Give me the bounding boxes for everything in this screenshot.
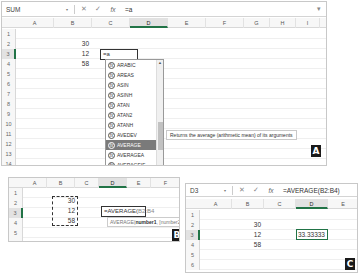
column-header[interactable]: I	[296, 18, 320, 28]
scrollbar[interactable]: ▲ ▼	[156, 60, 163, 166]
column-header[interactable]: B	[47, 178, 75, 188]
row-header[interactable]: 2	[2, 39, 16, 49]
chevron-down-icon[interactable]: ▾	[66, 7, 68, 12]
gridline	[16, 68, 326, 69]
function-name: ASIN	[117, 80, 129, 90]
function-list-item[interactable]: fxATANH	[106, 120, 163, 130]
cell-b4[interactable]: 58	[232, 241, 264, 248]
row-header[interactable]: 1	[186, 210, 200, 220]
column-header[interactable]: E	[168, 18, 206, 28]
function-list-item[interactable]: fxARABIC	[106, 60, 163, 70]
column-header[interactable]: B	[54, 18, 92, 28]
row-header[interactable]: 12	[2, 139, 16, 149]
row-header[interactable]: 11	[2, 129, 16, 139]
column-header[interactable]: C	[92, 18, 130, 28]
cancel-icon[interactable]: ✕	[77, 5, 91, 13]
scroll-thumb[interactable]	[158, 122, 163, 150]
chevron-down-icon[interactable]: ▾	[224, 188, 226, 193]
row-header[interactable]: 4	[9, 218, 23, 228]
function-list-item[interactable]: fxASINH	[106, 90, 163, 100]
function-list-item[interactable]: fxAVERAGEA	[106, 150, 163, 160]
cell-b4[interactable]: 58	[47, 217, 78, 224]
row-header[interactable]: 5	[2, 69, 16, 79]
gridline	[200, 269, 358, 270]
row-header[interactable]: 2	[186, 220, 200, 230]
formula-input[interactable]: =AVERAGE(B2:B4)	[279, 187, 357, 194]
enter-icon[interactable]: ✓	[249, 186, 263, 194]
row-header[interactable]: 10	[2, 119, 16, 129]
gridline	[16, 118, 326, 119]
column-header[interactable]: H	[270, 18, 296, 28]
row-header[interactable]: 3	[2, 49, 16, 59]
function-name: AVERAGEA	[117, 150, 144, 160]
row-header[interactable]: 3	[9, 208, 23, 218]
gridline	[200, 229, 358, 230]
function-list-item[interactable]: fxASIN	[106, 80, 163, 90]
insert-function-icon[interactable]: fx	[105, 6, 121, 13]
row-header[interactable]: 1	[2, 29, 16, 39]
column-header[interactable]: E	[328, 199, 358, 209]
cell-b3[interactable]: 12	[47, 207, 78, 214]
function-list-item[interactable]: fxAVERAGE	[106, 140, 163, 150]
cell-b3[interactable]: 12	[54, 50, 92, 57]
panel-c: D3▾ ✕ ✓ fx =AVERAGE(B2:B4) A B C D E 123…	[185, 183, 358, 273]
insert-function-icon[interactable]: fx	[263, 187, 279, 194]
cell-b2[interactable]: 30	[232, 221, 264, 228]
cancel-icon[interactable]: ✕	[235, 186, 249, 194]
cell-d3-editor[interactable]: =AVERAGE(B2:B4	[101, 206, 146, 217]
column-header[interactable]: D	[99, 178, 127, 188]
column-header[interactable]: B	[232, 199, 264, 209]
function-list-item[interactable]: fxAREAS	[106, 70, 163, 80]
function-name: AVERAGEIF	[117, 160, 145, 166]
row-header[interactable]: 14	[2, 159, 16, 166]
row-header[interactable]: 7	[2, 89, 16, 99]
row-header[interactable]: 3	[186, 230, 200, 240]
column-header[interactable]: C	[264, 199, 296, 209]
gridline	[200, 219, 358, 220]
cell-b4[interactable]: 58	[54, 60, 92, 67]
function-list-item[interactable]: fxATAN	[106, 100, 163, 110]
column-header[interactable]: F	[151, 178, 180, 188]
column-header[interactable]: G	[244, 18, 270, 28]
row-header[interactable]: 1	[9, 188, 23, 198]
cell-b2[interactable]: 30	[47, 197, 78, 204]
name-box-value: SUM	[6, 6, 20, 13]
enter-icon[interactable]: ✓	[91, 5, 105, 13]
column-header[interactable]: D	[296, 199, 328, 209]
expand-formula-icon[interactable]: ▾	[312, 5, 326, 13]
function-list-item[interactable]: fxAVEDEV	[106, 130, 163, 140]
row-header[interactable]: 13	[2, 149, 16, 159]
column-header[interactable]: E	[127, 178, 151, 188]
name-box[interactable]: D3▾	[186, 184, 230, 196]
function-list-item[interactable]: fxATAN2	[106, 110, 163, 120]
name-box[interactable]: SUM▾	[2, 2, 72, 16]
row-header[interactable]: 6	[9, 238, 23, 242]
cell-b3[interactable]: 12	[232, 231, 264, 238]
row-header[interactable]: 5	[9, 228, 23, 238]
row-header[interactable]: 6	[2, 79, 16, 89]
row-header[interactable]: 5	[186, 250, 200, 260]
column-header[interactable]: F	[206, 18, 244, 28]
function-icon: fx	[108, 62, 115, 69]
row-header[interactable]: 8	[2, 99, 16, 109]
cell-b2[interactable]: 30	[54, 40, 92, 47]
column-header[interactable]: C	[75, 178, 99, 188]
row-header[interactable]: 2	[9, 198, 23, 208]
function-list-item[interactable]: fxAVERAGEIF	[106, 160, 163, 166]
row-header[interactable]: 6	[186, 260, 200, 270]
column-header[interactable]: D	[130, 18, 168, 28]
function-name: ASINH	[117, 90, 132, 100]
row-header[interactable]: 9	[2, 109, 16, 119]
row-header[interactable]: 4	[2, 59, 16, 69]
panel-label-badge: C	[345, 258, 355, 270]
column-header[interactable]: A	[200, 199, 232, 209]
column-header[interactable]: A	[16, 18, 54, 28]
function-autocomplete-list[interactable]: fxARABICfxAREASfxASINfxASINHfxATANfxATAN…	[105, 59, 164, 166]
function-icon: fx	[108, 82, 115, 89]
formula-input[interactable]: =a	[121, 6, 312, 13]
separator	[232, 186, 233, 195]
column-header[interactable]: A	[23, 178, 47, 188]
scroll-up-icon[interactable]: ▲	[157, 60, 163, 65]
cell-d3[interactable]: 33.33333	[296, 231, 328, 238]
row-header[interactable]: 4	[186, 240, 200, 250]
